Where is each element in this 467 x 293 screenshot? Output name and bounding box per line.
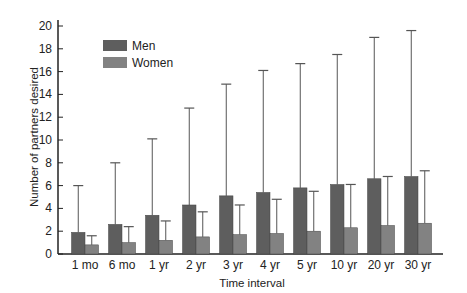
bar-group xyxy=(331,55,358,255)
y-tick-label: 14 xyxy=(39,87,53,101)
x-tick-label: 2 yr xyxy=(186,258,206,272)
bar-group xyxy=(405,31,432,254)
x-tick-label: 4 yr xyxy=(260,258,280,272)
bar-women xyxy=(196,237,210,254)
bar-group xyxy=(294,64,321,254)
bar-women xyxy=(122,243,136,254)
bar-women xyxy=(233,235,247,254)
y-axis: 02468101214161820 xyxy=(39,19,63,261)
y-axis-title: Number of partners desired xyxy=(28,67,40,207)
x-tick-label: 1 mo xyxy=(72,258,99,272)
bar-group xyxy=(109,163,136,254)
legend-label-men: Men xyxy=(132,39,155,53)
bar-women xyxy=(307,231,321,254)
bar-men xyxy=(257,192,271,254)
legend: MenWomen xyxy=(103,39,173,70)
bar-women xyxy=(344,228,358,254)
legend-label-women: Women xyxy=(132,56,173,70)
x-tick-label: 30 yr xyxy=(405,258,432,272)
bar-group xyxy=(257,70,284,254)
bar-group xyxy=(183,108,210,254)
y-tick-label: 18 xyxy=(39,42,53,56)
bar-group xyxy=(220,84,247,254)
x-tick-label: 3 yr xyxy=(223,258,243,272)
bar-men xyxy=(146,215,160,254)
y-tick-label: 4 xyxy=(45,201,52,215)
bar-men xyxy=(405,176,419,254)
x-axis-title: Time interval xyxy=(219,277,284,289)
bar-women xyxy=(418,223,432,254)
bar-men xyxy=(368,179,382,254)
y-tick-label: 0 xyxy=(45,247,52,261)
bar-men xyxy=(183,205,197,254)
y-tick-label: 8 xyxy=(45,156,52,170)
x-axis: 1 mo6 mo1 yr2 yr3 yr4 yr5 yr10 yr20 yr30… xyxy=(58,254,443,272)
bar-men xyxy=(72,232,86,254)
x-tick-label: 6 mo xyxy=(109,258,136,272)
y-tick-label: 2 xyxy=(45,224,52,238)
x-tick-label: 20 yr xyxy=(368,258,395,272)
bar-women xyxy=(159,240,173,254)
y-tick-label: 20 xyxy=(39,19,53,33)
bar-women xyxy=(85,245,99,254)
bar-women xyxy=(270,233,284,254)
bar-men xyxy=(294,188,308,254)
x-tick-label: 10 yr xyxy=(331,258,358,272)
bar-men xyxy=(109,224,123,254)
bar-women xyxy=(381,226,395,255)
y-tick-label: 6 xyxy=(45,179,52,193)
bar-group xyxy=(146,139,173,254)
x-tick-label: 5 yr xyxy=(297,258,317,272)
legend-swatch-women xyxy=(103,57,127,68)
bar-group xyxy=(368,37,395,254)
bar-group xyxy=(72,186,99,254)
y-tick-label: 10 xyxy=(39,133,53,147)
bar-men xyxy=(331,184,345,254)
x-tick-label: 1 yr xyxy=(149,258,169,272)
y-tick-label: 16 xyxy=(39,65,53,79)
bar-men xyxy=(220,196,234,254)
y-tick-label: 12 xyxy=(39,110,53,124)
legend-swatch-men xyxy=(103,40,127,51)
bar-chart: 02468101214161820 1 mo6 mo1 yr2 yr3 yr4 … xyxy=(0,0,467,293)
